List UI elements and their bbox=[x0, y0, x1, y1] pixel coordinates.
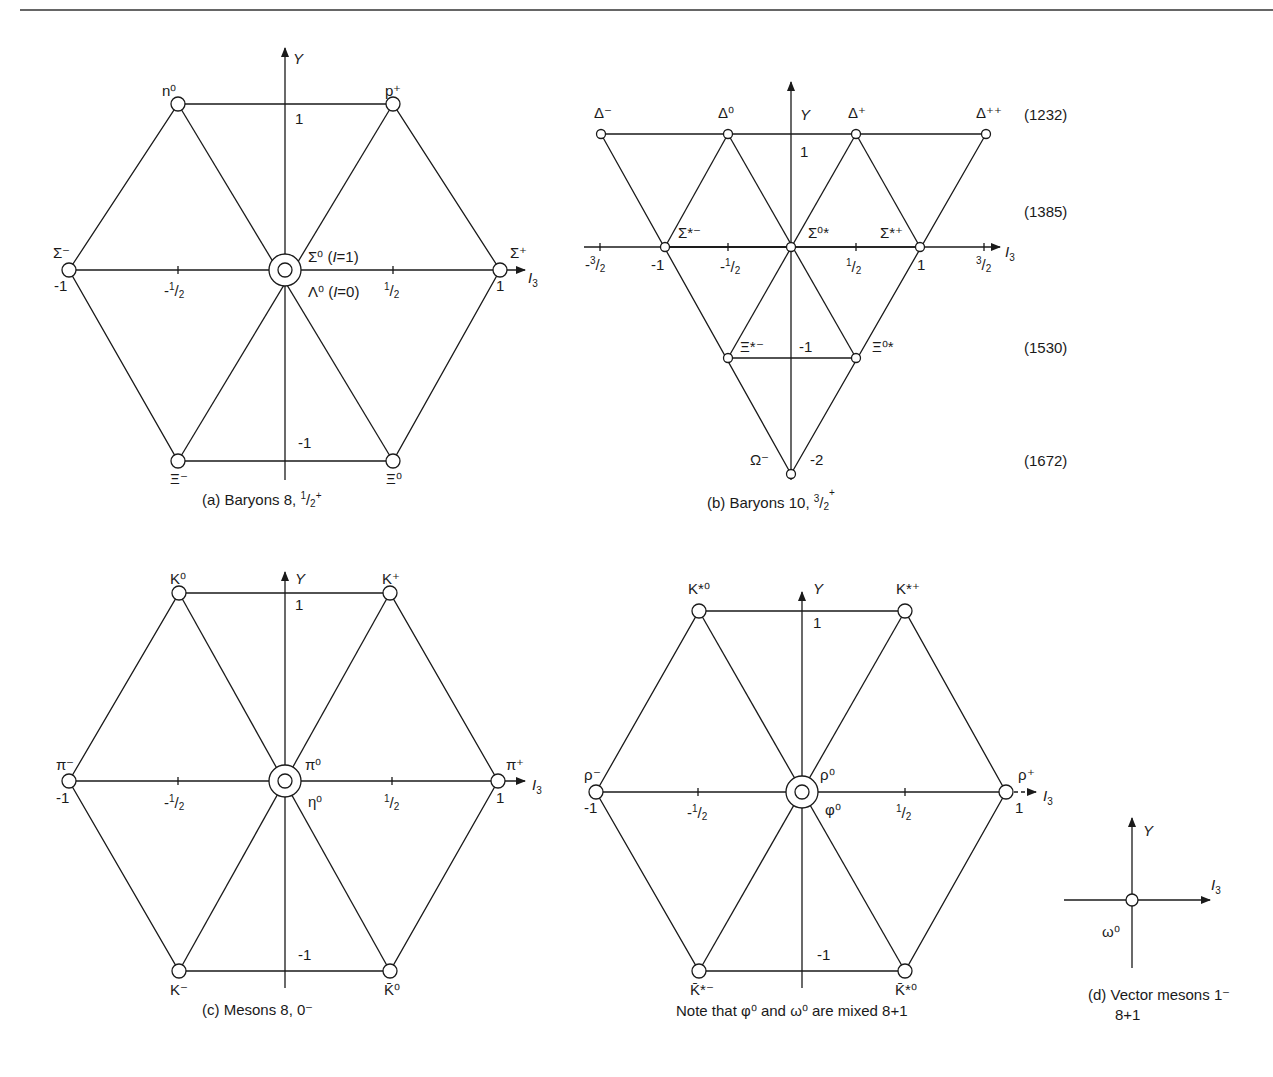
tick-x-half: 1/2 bbox=[384, 281, 400, 300]
tick-x-minus-1: -1 bbox=[651, 256, 664, 273]
label-delta-plus: Δ⁺ bbox=[848, 104, 866, 121]
particle-sigma-star-0 bbox=[787, 243, 796, 252]
tick-x-1: 1 bbox=[496, 277, 504, 294]
tick-y-minus-1: -1 bbox=[298, 946, 311, 963]
label-n0: n⁰ bbox=[162, 82, 176, 99]
particle-delta-plusplus bbox=[982, 130, 991, 139]
particle-k-minus bbox=[172, 964, 186, 978]
label-k-minus: K⁻ bbox=[170, 981, 188, 998]
mass-1530: (1530) bbox=[1024, 339, 1067, 356]
tick-y-1: 1 bbox=[800, 143, 808, 160]
caption-a: (a) Baryons 8, 1/2+ bbox=[202, 490, 322, 509]
particle-rho-plus bbox=[999, 785, 1013, 799]
svg-text:I3: I3 bbox=[1043, 787, 1053, 807]
label-sigma-star-0: Σ⁰* bbox=[808, 224, 829, 241]
particle-pi-minus bbox=[62, 774, 76, 788]
particle-delta-minus bbox=[597, 130, 606, 139]
particle-k0 bbox=[172, 586, 186, 600]
particle-delta-0 bbox=[724, 130, 733, 139]
tick-x-1: 1 bbox=[917, 256, 925, 273]
particle-k-star-plus bbox=[898, 604, 912, 618]
label-delta-0: Δ⁰ bbox=[718, 104, 734, 121]
label-omega0: ω⁰ bbox=[1102, 923, 1120, 940]
label-pi0: π⁰ bbox=[305, 756, 321, 773]
label-sigma-star-minus: Σ*⁻ bbox=[678, 224, 701, 241]
particle-omega0 bbox=[1126, 894, 1138, 906]
tick-x-minus-half: -1/2 bbox=[164, 281, 185, 300]
label-sigma-star-plus: Σ*⁺ bbox=[880, 224, 903, 241]
tick-y-1: 1 bbox=[813, 614, 821, 631]
panel-d-vector-singlet bbox=[1064, 818, 1210, 968]
label-k-star-0-bar: K̄*⁰ bbox=[895, 981, 917, 998]
label-rho-plus: ρ⁺ bbox=[1018, 766, 1035, 783]
label-sigma0: Σ⁰ (I=1) bbox=[308, 248, 359, 265]
tick-x-3-2: 3/2 bbox=[976, 255, 992, 274]
particle-xi-star-minus bbox=[724, 354, 733, 363]
mass-1232: (1232) bbox=[1024, 106, 1067, 123]
tick-y-minus-2: -2 bbox=[810, 451, 823, 468]
label-k0-bar: K̄⁰ bbox=[384, 981, 400, 998]
particle-pi-plus bbox=[491, 774, 505, 788]
particle-k0-bar bbox=[383, 964, 397, 978]
y-axis-label: Y bbox=[1143, 822, 1154, 839]
tick-y-1: 1 bbox=[295, 110, 303, 127]
panel-b-baryon-decuplet bbox=[584, 82, 1000, 480]
particle-sigma-star-minus bbox=[661, 243, 670, 252]
label-k-star-minus-bar: K̄*⁻ bbox=[690, 981, 714, 998]
particle-rho0-phi0-inner bbox=[795, 785, 809, 799]
tick-y-minus-1: -1 bbox=[799, 338, 812, 355]
particle-sigma0-lambda0-inner bbox=[278, 263, 292, 277]
caption-d-line1: (d) Vector mesons 1⁻ bbox=[1088, 986, 1230, 1003]
tick-x-minus-1: -1 bbox=[56, 789, 69, 806]
tick-y-minus-1: -1 bbox=[298, 434, 311, 451]
label-pi-plus: π⁺ bbox=[506, 756, 524, 773]
caption-b: (b) Baryons 10, 3/2+ bbox=[707, 487, 835, 512]
svg-text:I3: I3 bbox=[528, 269, 538, 289]
tick-x-minus-1: -1 bbox=[54, 277, 67, 294]
particle-delta-plus bbox=[852, 130, 861, 139]
caption-vector-note: Note that φ⁰ and ω⁰ are mixed 8+1 bbox=[676, 1002, 907, 1019]
label-rho-minus: ρ⁻ bbox=[584, 766, 601, 783]
label-p-plus: p⁺ bbox=[385, 82, 401, 99]
tick-y-minus-1: -1 bbox=[817, 946, 830, 963]
label-k0: K⁰ bbox=[170, 570, 186, 587]
particle-k-star-0-bar bbox=[898, 964, 912, 978]
particle-k-star-minus-bar bbox=[692, 964, 706, 978]
label-k-plus: K⁺ bbox=[382, 570, 400, 587]
particle-pi0-eta0-inner bbox=[278, 774, 292, 788]
particle-omega-minus bbox=[787, 470, 796, 479]
tick-x-minus-half: -1/2 bbox=[720, 257, 741, 276]
tick-x-1: 1 bbox=[496, 789, 504, 806]
label-phi0: φ⁰ bbox=[825, 801, 841, 818]
tick-x-minus-half: -1/2 bbox=[687, 803, 708, 822]
label-k-star-0: K*⁰ bbox=[688, 580, 710, 597]
mass-1385: (1385) bbox=[1024, 203, 1067, 220]
svg-text:I3: I3 bbox=[1005, 243, 1015, 263]
tick-x-half: 1/2 bbox=[896, 803, 912, 822]
mass-1672: (1672) bbox=[1024, 452, 1067, 469]
particle-rho-minus bbox=[589, 785, 603, 799]
eightfold-way-figure: n⁰ p⁺ Y 1 Σ⁻ Σ⁺ I3 -1 1 -1/2 1/2 Σ⁰ (I=1… bbox=[0, 0, 1273, 1077]
particle-n0 bbox=[171, 97, 185, 111]
particle-xi-star-0 bbox=[852, 354, 861, 363]
tick-x-1: 1 bbox=[1015, 799, 1023, 816]
particle-sigma-minus bbox=[62, 263, 76, 277]
y-axis-label: Y bbox=[813, 580, 824, 597]
label-xi-star-minus: Ξ*⁻ bbox=[740, 338, 764, 355]
tick-x-minus-3-2: -3/2 bbox=[585, 255, 606, 274]
particle-k-plus bbox=[383, 586, 397, 600]
label-sigma-plus: Σ⁺ bbox=[510, 244, 527, 261]
particle-sigma-star-plus bbox=[916, 243, 925, 252]
label-eta0: η⁰ bbox=[308, 793, 322, 810]
tick-x-half: 1/2 bbox=[384, 793, 400, 812]
tick-x-minus-1: -1 bbox=[584, 799, 597, 816]
particle-p-plus bbox=[386, 97, 400, 111]
label-rho0: ρ⁰ bbox=[820, 766, 835, 783]
tick-y-1: 1 bbox=[295, 596, 303, 613]
label-pi-minus: π⁻ bbox=[56, 756, 74, 773]
caption-c: (c) Mesons 8, 0⁻ bbox=[202, 1001, 313, 1018]
particle-xi-minus bbox=[171, 454, 185, 468]
decuplet-triangle bbox=[601, 134, 986, 474]
caption-d-line2: 8+1 bbox=[1115, 1006, 1140, 1023]
label-k-star-plus: K*⁺ bbox=[896, 580, 920, 597]
